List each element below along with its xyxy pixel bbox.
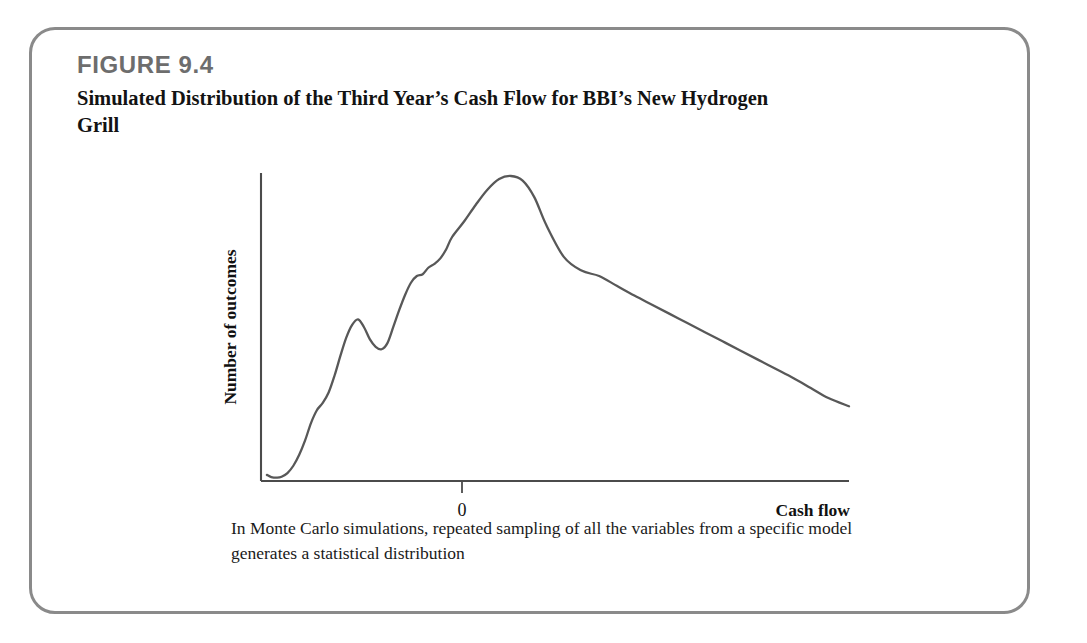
figure-title: Simulated Distribution of the Third Year… xyxy=(77,85,777,137)
y-axis-title: Number of outcomes xyxy=(220,249,240,404)
figure-number-label: FIGURE 9.4 xyxy=(77,52,937,78)
figure-caption: In Monte Carlo simulations, repeated sam… xyxy=(231,516,891,566)
figure-header: FIGURE 9.4 Simulated Distribution of the… xyxy=(77,52,937,138)
distribution-curve xyxy=(267,176,849,478)
figure-card: FIGURE 9.4 Simulated Distribution of the… xyxy=(29,27,1030,614)
